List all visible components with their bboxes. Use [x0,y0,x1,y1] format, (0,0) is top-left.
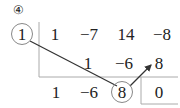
coefficient-2: −7 [80,26,98,43]
remainder: 0 [155,84,164,101]
problem-label: ④ [13,4,24,16]
result-1: 1 [52,84,61,101]
coefficient-1: 1 [51,26,60,43]
coefficient-4: −8 [153,26,171,43]
product-1: 1 [84,55,93,72]
product-3: 8 [155,55,164,72]
divisor: 1 [18,26,27,43]
coefficient-3: 14 [118,26,135,43]
multiply-arrow-line [30,41,117,86]
result-3: 8 [118,84,127,101]
result-2: −6 [80,84,98,101]
product-2: −6 [115,55,133,72]
